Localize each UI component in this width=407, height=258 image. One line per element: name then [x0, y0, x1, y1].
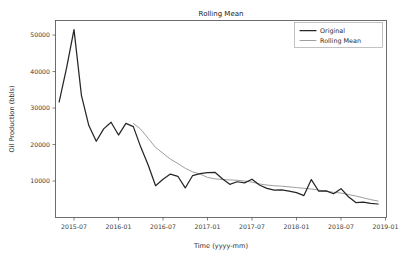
chart-title-group: Rolling Mean — [199, 10, 244, 18]
y-axis-label: Oil Production (bbls) — [8, 86, 16, 153]
data-series-group — [59, 30, 378, 204]
x-axis-label: Time (yyyy-mm) — [193, 242, 248, 250]
legend-label-rolling-mean: Rolling Mean — [320, 37, 361, 45]
y-tick-label: 40000 — [30, 68, 50, 75]
x-tick-label: 2018-01 — [284, 223, 310, 230]
legend-label-original: Original — [320, 27, 345, 35]
x-axis-ticks: 2015-072016-012016-072017-012017-072018-… — [61, 218, 398, 230]
x-tick-label: 2018-07 — [328, 223, 354, 230]
x-tick-label: 2016-01 — [106, 223, 132, 230]
x-tick-label: 2017-07 — [239, 223, 265, 230]
plot-area-border — [56, 21, 387, 218]
x-tick-label: 2015-07 — [61, 223, 87, 230]
plot-frame — [56, 21, 387, 218]
y-tick-label: 30000 — [30, 104, 50, 111]
y-tick-label: 10000 — [30, 177, 50, 184]
chart-title: Rolling Mean — [199, 10, 244, 18]
series-line-original — [59, 30, 378, 204]
y-tick-label: 20000 — [30, 141, 50, 148]
chart-legend[interactable]: Original Rolling Mean — [295, 23, 383, 48]
chart-figure: Rolling Mean 1000020000300004000050000 2… — [0, 0, 407, 258]
x-tick-label: 2019-01 — [373, 223, 399, 230]
rolling-mean-line-chart: Rolling Mean 1000020000300004000050000 2… — [0, 0, 407, 258]
x-tick-label: 2016-07 — [150, 223, 176, 230]
x-tick-label: 2017-01 — [195, 223, 221, 230]
y-tick-label: 50000 — [30, 31, 50, 38]
y-axis-ticks: 1000020000300004000050000 — [30, 31, 55, 184]
